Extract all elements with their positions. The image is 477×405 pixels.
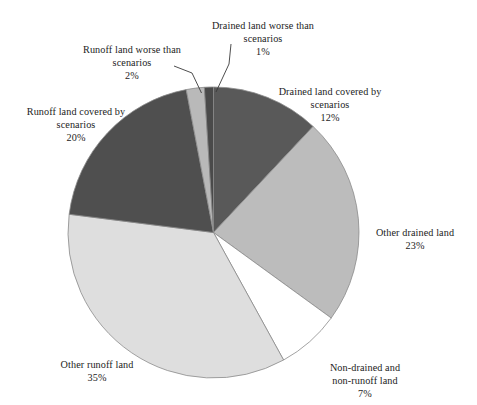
slice-label-text: Runoff land worse than scenarios xyxy=(83,44,181,68)
slice-label-text: Non-drained and non-runoff land xyxy=(330,362,400,386)
slice-label-other-runoff-land: Other runoff land 35% xyxy=(30,345,164,397)
slice-label-drained-land-worse-than-scenarios: Drained land worse than scenarios 1% xyxy=(188,6,338,71)
pie-chart-figure: Drained land worse than scenarios 1% Run… xyxy=(0,0,477,405)
slice-label-percent: 7% xyxy=(295,387,435,400)
slice-label-text: Other drained land xyxy=(376,227,454,238)
slice-label-percent: 35% xyxy=(30,371,164,384)
slice-label-percent: 20% xyxy=(2,131,150,144)
slice-label-text: Runoff land covered by scenarios xyxy=(27,106,125,130)
slice-label-text: Drained land covered by scenarios xyxy=(279,86,382,110)
slice-label-percent: 23% xyxy=(354,239,476,252)
slice-label-runoff-land-covered-by-scenarios: Runoff land covered by scenarios 20% xyxy=(2,92,150,157)
slice-label-non-drained-and-non-runoff-land: Non-drained and non-runoff land 7% xyxy=(295,348,435,405)
slice-label-text: Other runoff land xyxy=(61,359,134,370)
slice-label-text: Drained land worse than scenarios xyxy=(212,20,314,44)
slice-label-runoff-land-worse-than-scenarios: Runoff land worse than scenarios 2% xyxy=(62,30,202,95)
slice-label-percent: 12% xyxy=(252,111,408,124)
slice-label-drained-land-covered-by-scenarios: Drained land covered by scenarios 12% xyxy=(252,72,408,137)
slice-label-other-drained-land: Other drained land 23% xyxy=(354,213,476,265)
slice-label-percent: 1% xyxy=(188,45,338,58)
slice-label-percent: 2% xyxy=(62,69,202,82)
